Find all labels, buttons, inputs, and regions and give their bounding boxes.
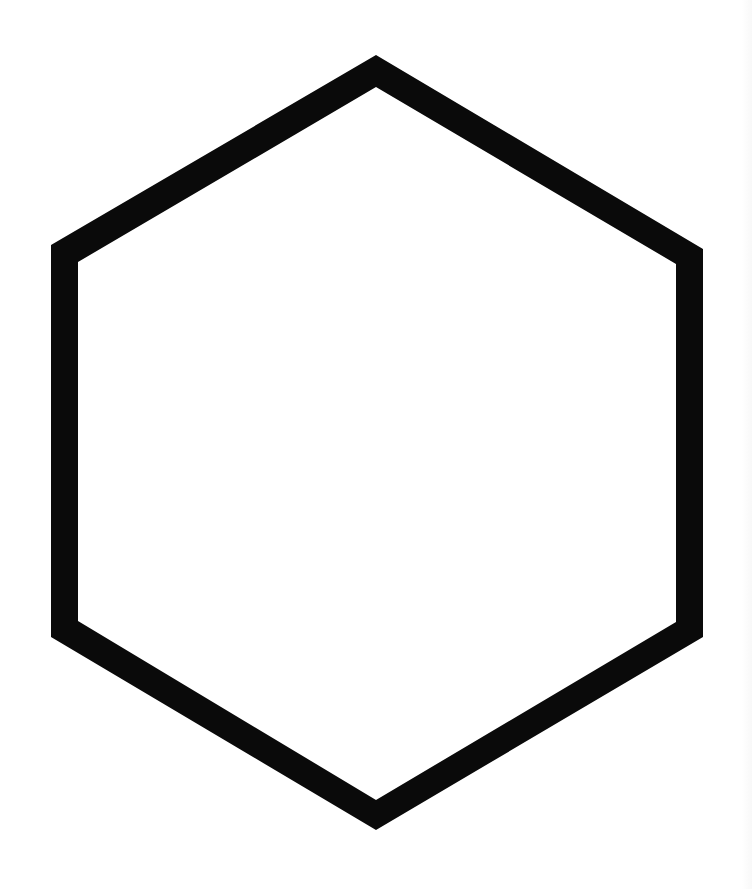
hexagon-diagram [0, 0, 752, 889]
hexagon-outline [51, 55, 703, 830]
